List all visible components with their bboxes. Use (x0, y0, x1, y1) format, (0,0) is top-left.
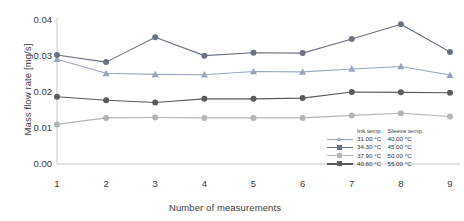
chart-container: Mass flow rate [mg/s] Number of measurem… (0, 0, 464, 221)
legend-line-marker-icon (327, 160, 353, 167)
series-marker (103, 59, 109, 65)
legend-header-row: Ink temp. Sleeve temp. (327, 128, 429, 135)
series-marker (447, 49, 453, 55)
legend-header-ink-temp: Ink temp. (357, 128, 387, 135)
x-tick-label: 1 (45, 178, 69, 189)
series-marker (300, 50, 306, 56)
series-marker (54, 94, 60, 100)
series-marker (300, 115, 306, 121)
series-marker (103, 97, 109, 103)
legend-line-marker-icon (327, 136, 353, 143)
legend-body: 31.00 °C40.00 °C34.30 °C45.00 °C37.90 °C… (327, 135, 429, 168)
x-tick-label: 2 (94, 178, 118, 189)
legend-swatch (327, 160, 357, 168)
legend-ink-temp-value: 31.00 °C (357, 135, 387, 143)
legend-swatch-header (327, 128, 357, 135)
series-line (57, 24, 450, 62)
legend-header-sleeve-temp: Sleeve temp. (387, 128, 428, 135)
legend-item[interactable]: 37.90 °C50.00 °C (327, 152, 429, 160)
series-marker (447, 113, 453, 119)
x-tick-label: 9 (438, 178, 462, 189)
legend-table: Ink temp. Sleeve temp. 31.00 °C40.00 °C3… (327, 128, 429, 168)
legend-ink-temp-value: 40.60 °C (357, 160, 387, 168)
legend-line-marker-icon (327, 152, 353, 159)
series-marker (54, 52, 60, 58)
x-tick-label: 8 (389, 178, 413, 189)
series-marker (300, 95, 306, 101)
series-marker (251, 115, 257, 121)
series-marker (152, 34, 158, 40)
series-marker (349, 36, 355, 42)
x-tick-label: 4 (192, 178, 216, 189)
series-2 (54, 21, 453, 65)
series-marker (251, 96, 257, 102)
series-marker (251, 50, 257, 56)
series-marker (398, 89, 404, 95)
series-marker (103, 115, 109, 121)
series-marker (54, 121, 60, 127)
series-marker (201, 115, 207, 121)
legend-sleeve-temp-value: 45.00 °C (387, 143, 428, 151)
series-marker (201, 53, 207, 59)
chart-legend: Ink temp. Sleeve temp. 31.00 °C40.00 °C3… (327, 128, 429, 168)
series-marker (398, 110, 404, 116)
series-marker (447, 90, 453, 96)
series-marker (201, 96, 207, 102)
x-tick-label: 6 (291, 178, 315, 189)
series-marker (152, 115, 158, 121)
legend-swatch (327, 152, 357, 160)
legend-line-marker-icon (327, 144, 353, 151)
x-tick-label: 5 (242, 178, 266, 189)
series-3 (54, 110, 453, 127)
legend-sleeve-temp-value: 50.00 °C (387, 152, 428, 160)
legend-sleeve-temp-value: 55.00 °C (387, 160, 428, 168)
series-marker (349, 89, 355, 95)
legend-ink-temp-value: 37.90 °C (357, 152, 387, 160)
x-tick-label: 3 (143, 178, 167, 189)
legend-item[interactable]: 34.30 °C45.00 °C (327, 143, 429, 151)
x-tick-label: 7 (340, 178, 364, 189)
legend-swatch (327, 135, 357, 143)
legend-item[interactable]: 40.60 °C55.00 °C (327, 160, 429, 168)
legend-item[interactable]: 31.00 °C40.00 °C (327, 135, 429, 143)
series-marker (398, 21, 404, 27)
legend-swatch (327, 143, 357, 151)
series-marker (152, 99, 158, 105)
legend-sleeve-temp-value: 40.00 °C (387, 135, 428, 143)
series-4 (54, 89, 453, 105)
legend-ink-temp-value: 34.30 °C (357, 143, 387, 151)
series-marker (349, 112, 355, 118)
